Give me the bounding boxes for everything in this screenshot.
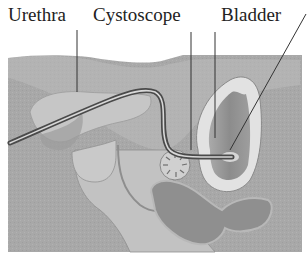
cystoscopy-diagram: Urethra Cystoscope Bladder bbox=[0, 0, 307, 258]
label-urethra: Urethra bbox=[8, 4, 66, 26]
label-cystoscope: Cystoscope bbox=[93, 4, 181, 26]
anatomy-illustration bbox=[0, 0, 307, 258]
label-bladder: Bladder bbox=[221, 4, 281, 26]
